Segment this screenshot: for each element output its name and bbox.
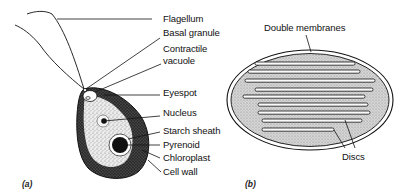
- label-flagellum: Flagellum: [163, 14, 203, 24]
- figure: Flagellum Basal granule Contractile vacu…: [0, 0, 401, 194]
- flagellum-strand: [27, 11, 84, 89]
- leader-contractile-vacuole: [95, 64, 161, 92]
- label-eyespot: Eyespot: [163, 88, 197, 98]
- leader-basal-granule: [86, 38, 160, 89]
- label-starch-sheath: Starch sheath: [163, 126, 220, 136]
- label-discs: Discs: [342, 152, 365, 162]
- label-basal-granule: Basal granule: [163, 28, 220, 38]
- chloroplast-diagram: [227, 35, 393, 150]
- label-vacuole: vacuole: [163, 56, 195, 66]
- eyespot-shape: [86, 97, 90, 100]
- panel-tag-a: (a): [22, 179, 32, 189]
- label-cell-wall: Cell wall: [163, 167, 197, 177]
- inner-membrane: [231, 54, 389, 147]
- label-contractile: Contractile: [163, 44, 207, 54]
- euglena-diagram: [15, 11, 161, 178]
- label-nucleus: Nucleus: [163, 108, 197, 118]
- contractile-vacuole: [83, 91, 97, 102]
- label-pyrenoid: Pyrenoid: [163, 140, 200, 150]
- discs: [243, 62, 375, 131]
- leader-cell-wall: [148, 160, 161, 172]
- label-double-membranes: Double membranes: [264, 23, 345, 33]
- label-chloroplast: Chloroplast: [163, 153, 210, 163]
- panel-tag-b: (b): [245, 179, 256, 189]
- leader-double-membranes: [306, 35, 311, 52]
